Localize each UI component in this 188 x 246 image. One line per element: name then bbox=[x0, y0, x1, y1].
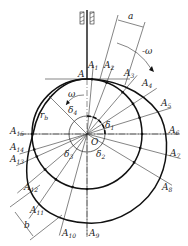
point-label: A3 bbox=[123, 68, 135, 79]
point-label: A4 bbox=[141, 78, 153, 89]
label-delta-3: δ3 bbox=[64, 149, 73, 160]
label-neg-omega: -ω bbox=[142, 46, 153, 56]
label-dim-b: b bbox=[24, 220, 30, 230]
point-label: A7 bbox=[169, 148, 181, 159]
label-a: A bbox=[77, 69, 85, 79]
label-omega: ω bbox=[68, 89, 76, 99]
point-label: A5 bbox=[160, 98, 172, 109]
point-label: A8 bbox=[161, 182, 173, 193]
point-label: A12 bbox=[23, 182, 38, 193]
label-dim-a: a bbox=[128, 11, 133, 21]
cam-diagram: A A1A2A3A4A5A6A7A8A9A10A11A12A13A14A15 O… bbox=[0, 0, 188, 246]
point-label: A14 bbox=[9, 142, 24, 153]
dim-b-ext2 bbox=[30, 215, 62, 240]
dim-a-line bbox=[118, 20, 143, 27]
radial-line bbox=[87, 134, 172, 185]
point-label: A15 bbox=[9, 126, 24, 137]
point-label: A1 bbox=[87, 60, 98, 71]
label-delta-2: δ2 bbox=[96, 149, 105, 160]
radial-line bbox=[87, 65, 93, 134]
radial-line bbox=[87, 88, 157, 134]
point-label: A9 bbox=[88, 228, 100, 239]
point-label: A13 bbox=[9, 154, 24, 165]
label-delta-4: δ4 bbox=[68, 105, 77, 116]
label-o: O bbox=[91, 137, 99, 147]
point-label: A2 bbox=[103, 60, 115, 71]
point-label: A10 bbox=[61, 228, 76, 239]
point-label: A6 bbox=[168, 125, 180, 136]
label-rb: rb bbox=[40, 110, 48, 121]
label-delta-1: δ1 bbox=[105, 120, 114, 131]
